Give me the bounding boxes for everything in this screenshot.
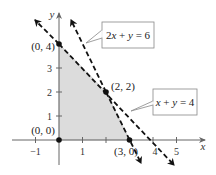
point-label-2-2: (2, 2) <box>111 80 135 93</box>
y-axis-label: y <box>49 8 55 20</box>
point-label-0-0: (0, 0) <box>31 124 55 137</box>
point-0-4 <box>56 41 62 47</box>
x-tick-label-1: 1 <box>80 146 85 157</box>
x-tick-label-neg1: −1 <box>30 146 41 157</box>
figure: −1 1 4 5 1 2 3 x y (0, 4) (2, 2) (0, 0) … <box>0 0 216 175</box>
y-tick-label-3: 3 <box>47 63 52 74</box>
point-0-0 <box>56 137 62 143</box>
y-tick-label-1: 1 <box>47 111 52 122</box>
point-3-0 <box>127 137 133 143</box>
x-axis-label: x <box>200 140 206 152</box>
chart-svg: −1 1 4 5 1 2 3 x y (0, 4) (2, 2) (0, 0) … <box>0 0 216 175</box>
x-tick-label-5: 5 <box>174 146 179 157</box>
point-label-0-4: (0, 4) <box>31 40 55 53</box>
point-label-3-0: (3, 0) <box>114 145 138 158</box>
callout-2x-plus-y-eq-6: 2x + y = 6 <box>86 22 154 48</box>
equation-label-2: x + y = 4 <box>155 96 195 108</box>
callout-x-plus-y-eq-4: x + y = 4 <box>131 89 197 115</box>
feasible-region <box>59 44 130 140</box>
point-2-2 <box>103 89 109 95</box>
y-tick-label-2: 2 <box>47 87 52 98</box>
equation-label-1: 2x + y = 6 <box>106 29 151 41</box>
x-tick-label-4: 4 <box>153 146 158 157</box>
